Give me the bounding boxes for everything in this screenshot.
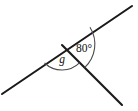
angle-diagram: 80° g (0, 0, 138, 111)
label-known-angle: 80° (76, 42, 93, 54)
label-unknown-angle-g: g (59, 53, 65, 66)
angle-diagram-container: 80° g (0, 0, 138, 111)
